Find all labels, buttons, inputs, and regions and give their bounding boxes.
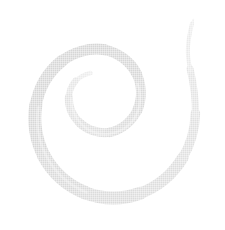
- spiral-inner-tip-cap: [89, 71, 93, 75]
- image-canvas: Light gray spiral swirl on white backgro…: [0, 0, 225, 230]
- spiral-outer-tip-cap: [192, 19, 194, 21]
- spiral-graphic: [0, 0, 225, 230]
- spiral-segment-outer-d: [84, 192, 141, 198]
